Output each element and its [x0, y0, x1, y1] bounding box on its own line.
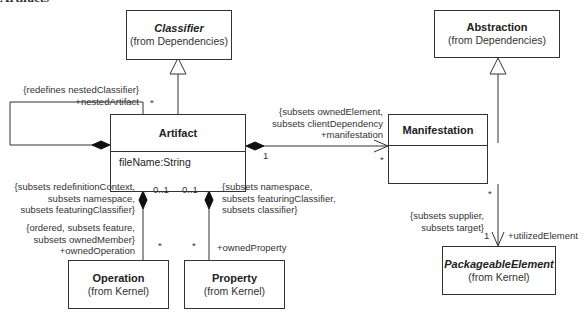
class-package: (from Kernel): [88, 285, 149, 298]
operation-name-compartment: Operation (from Kernel): [69, 261, 168, 308]
attribute-filename: fileName:String: [119, 156, 191, 168]
owned-operation-constraint-line1: {ordered, subsets feature,: [26, 222, 135, 234]
manifestation-constraint-line2: subsets clientDependency: [272, 118, 383, 130]
class-abstraction[interactable]: Abstraction (from Dependencies): [434, 10, 560, 58]
class-operation[interactable]: Operation (from Kernel): [68, 260, 169, 309]
owned-property-owner-constraint-line2: subsets featuringClassifier,: [222, 193, 336, 205]
nested-artifact-constraint: {redefines nestedClassifier}: [23, 84, 139, 96]
utilized-element-labels: {subsets supplier, subsets target}: [410, 210, 484, 233]
owned-operation-owner-multiplicity: 0..1: [153, 184, 169, 195]
manifestation-composition-diamond: [246, 142, 264, 150]
class-name: Abstraction: [466, 21, 527, 34]
packageable-element-name-compartment: PackageableElement (from Kernel): [443, 247, 555, 294]
manifestation-role: +manifestation: [272, 129, 383, 141]
owned-operation-labels: {ordered, subsets feature, subsets owned…: [26, 222, 135, 257]
owned-property-owner-labels: {subsets namespace, subsets featuringCla…: [222, 181, 336, 216]
class-package: (from Dependencies): [448, 34, 546, 47]
artifact-name-compartment: Artifact: [111, 115, 245, 151]
manifestation-labels: {subsets ownedElement, subsets clientDep…: [272, 106, 383, 141]
nested-artifact-multiplicity: *: [150, 97, 154, 108]
manifestation-name-compartment: Manifestation: [389, 115, 487, 145]
utilized-element-constraint-line2: subsets target}: [410, 222, 484, 234]
classifier-name-compartment: Classifier (from Dependencies): [127, 11, 231, 59]
owned-operation-owner-constraint-line1: {subsets redefinitionContext,: [15, 181, 135, 193]
manifestation-target-multiplicity: *: [380, 154, 384, 165]
class-manifestation[interactable]: Manifestation: [388, 114, 488, 184]
class-name: Manifestation: [403, 124, 474, 137]
owned-property-owner-constraint-line3: subsets classifier}: [222, 204, 336, 216]
owned-operation-owner-labels: {subsets redefinitionContext, subsets na…: [15, 181, 135, 216]
owned-operation-constraint-line2: subsets ownedMember}: [26, 234, 135, 246]
generalization-arrowhead-abstraction: [490, 58, 506, 74]
owned-property-multiplicity: *: [192, 240, 196, 251]
abstraction-name-compartment: Abstraction (from Dependencies): [435, 11, 559, 57]
utilized-element-constraint-line1: {subsets supplier,: [410, 210, 484, 222]
owned-operation-composition-diamond: [139, 191, 147, 209]
owned-operation-role: +ownedOperation: [26, 245, 135, 257]
class-name: Property: [212, 272, 257, 285]
owned-operation-multiplicity: *: [158, 240, 162, 251]
class-package: (from Kernel): [468, 271, 529, 284]
manifestation-attributes: [389, 145, 487, 183]
utilized-element-source-multiplicity: *: [488, 188, 492, 199]
nested-artifact-composition-diamond: [92, 141, 110, 149]
class-package: (from Dependencies): [130, 35, 228, 48]
class-name: PackageableElement: [444, 258, 553, 271]
class-property[interactable]: Property (from Kernel): [184, 260, 285, 309]
generalization-arrowhead-classifier: [170, 58, 186, 74]
property-name-compartment: Property (from Kernel): [185, 261, 284, 308]
class-name: Artifact: [159, 127, 198, 140]
class-name: Operation: [93, 272, 145, 285]
manifestation-constraint-line1: {subsets ownedElement,: [272, 106, 383, 118]
owned-property-owner-multiplicity: 0..1: [182, 184, 198, 195]
nested-artifact-role: +nestedArtifact: [23, 96, 139, 108]
class-package: (from Kernel): [204, 285, 265, 298]
manifestation-source-multiplicity: 1: [263, 150, 268, 161]
owned-property-owner-constraint-line1: {subsets namespace,: [222, 181, 336, 193]
nested-artifact-labels: {redefines nestedClassifier} +nestedArti…: [23, 84, 139, 107]
owned-property-role: +ownedProperty: [217, 242, 286, 254]
owned-property-composition-diamond: [205, 191, 213, 209]
owned-operation-owner-constraint-line3: subsets featuringClassifier}: [15, 204, 135, 216]
class-name: Classifier: [154, 22, 204, 35]
owned-operation-owner-constraint-line2: subsets namespace,: [15, 193, 135, 205]
class-packageable-element[interactable]: PackageableElement (from Kernel): [442, 246, 556, 295]
utilized-element-role: +utilizedElement: [508, 230, 578, 242]
class-classifier[interactable]: Classifier (from Dependencies): [126, 10, 232, 60]
utilized-element-multiplicity: 1: [484, 230, 489, 241]
